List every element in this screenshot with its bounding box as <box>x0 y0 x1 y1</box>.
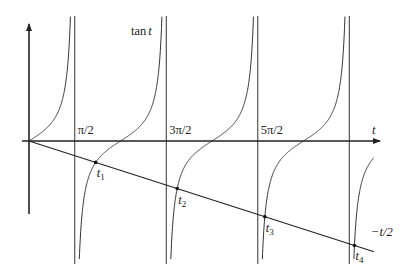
intersection-dot <box>175 187 179 191</box>
asymptote-label: 3π/2 <box>169 123 191 137</box>
intersection-dot <box>263 215 267 219</box>
tan-diagram: t1t2t3t4 π/23π/25π/2 tant t −t/2 <box>0 0 409 276</box>
tan-branch <box>171 17 254 259</box>
intersection-label: t2 <box>178 193 186 209</box>
asymptote-label: π/2 <box>78 123 94 137</box>
tan-branch <box>262 17 345 259</box>
tan-branch <box>79 17 162 259</box>
x-axis-label: t <box>372 123 376 137</box>
tan-branch <box>354 158 374 259</box>
asymptotes <box>75 16 350 264</box>
intersection-label: t3 <box>266 221 274 237</box>
intersection-points: t1t2t3t4 <box>94 161 364 266</box>
tan-branch <box>29 17 70 141</box>
line-label: −t/2 <box>371 225 393 239</box>
asymptote-label: 5π/2 <box>261 123 283 137</box>
intersection-label: t1 <box>97 166 105 182</box>
intersection-dot <box>353 244 357 248</box>
intersection-label: t4 <box>355 249 363 265</box>
intersection-dot <box>94 161 98 165</box>
asymptote-labels: π/23π/25π/2 <box>78 123 283 137</box>
tan-label: tant <box>131 24 152 38</box>
tan-curve <box>29 17 374 259</box>
